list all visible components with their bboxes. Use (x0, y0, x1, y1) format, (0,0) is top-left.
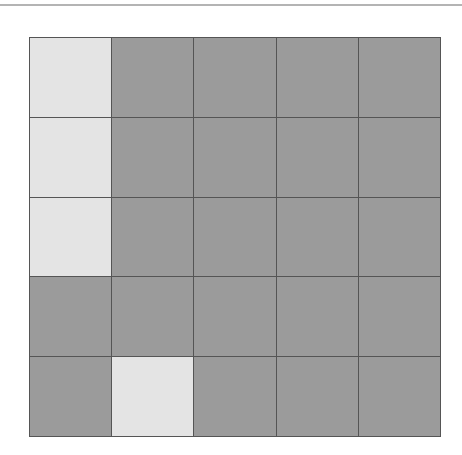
board-cell-r4-c0[interactable] (30, 357, 111, 436)
board-cell-r1-c0[interactable] (30, 118, 111, 197)
board-cell-r4-c1[interactable] (112, 357, 193, 436)
board-cell-r3-c2[interactable] (194, 277, 275, 356)
board-cell-r1-c3[interactable] (277, 118, 358, 197)
top-divider (0, 4, 462, 6)
board-cell-r3-c4[interactable] (359, 277, 440, 356)
board-cell-r1-c2[interactable] (194, 118, 275, 197)
board-cell-r2-c1[interactable] (112, 198, 193, 277)
board-cell-r1-c4[interactable] (359, 118, 440, 197)
board-cell-r0-c3[interactable] (277, 38, 358, 117)
board-cell-r3-c0[interactable] (30, 277, 111, 356)
board-cell-r0-c1[interactable] (112, 38, 193, 117)
board-cell-r2-c3[interactable] (277, 198, 358, 277)
board-cell-r3-c1[interactable] (112, 277, 193, 356)
board-cell-r3-c3[interactable] (277, 277, 358, 356)
game-board (29, 37, 441, 437)
board-cell-r2-c0[interactable] (30, 198, 111, 277)
board-cell-r4-c3[interactable] (277, 357, 358, 436)
board-cell-r2-c2[interactable] (194, 198, 275, 277)
board-cell-r4-c2[interactable] (194, 357, 275, 436)
board-cell-r0-c2[interactable] (194, 38, 275, 117)
board-cell-r0-c0[interactable] (30, 38, 111, 117)
board-cell-r0-c4[interactable] (359, 38, 440, 117)
board-cell-r1-c1[interactable] (112, 118, 193, 197)
board-cell-r2-c4[interactable] (359, 198, 440, 277)
board-cell-r4-c4[interactable] (359, 357, 440, 436)
